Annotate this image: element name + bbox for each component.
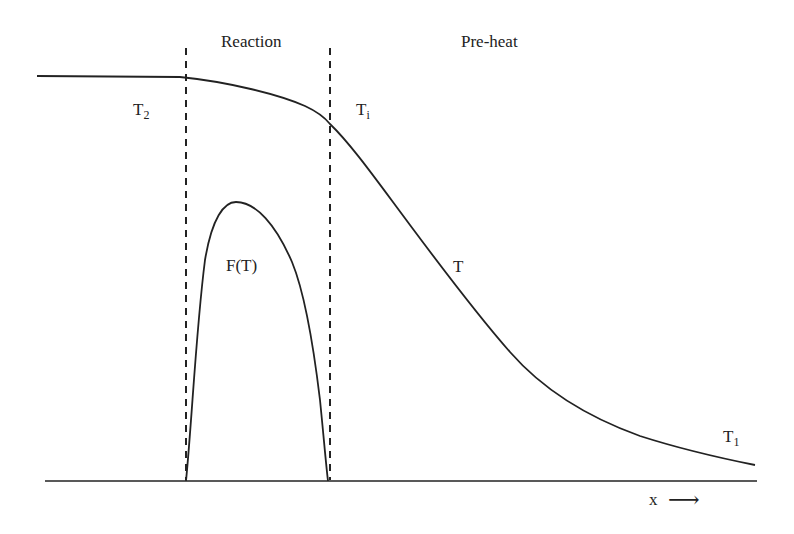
- temperature-label: T: [453, 257, 464, 276]
- reaction-rate-label: F(T): [226, 256, 257, 275]
- t2-label: T2: [133, 100, 149, 122]
- t1-label: T1: [723, 427, 739, 449]
- temperature-curve: [37, 76, 755, 465]
- ti-label: Ti: [356, 100, 370, 122]
- reaction-region-label: Reaction: [221, 32, 282, 51]
- flame-structure-diagram: Reaction Pre-heat T2 Ti T T1 F(T) x ⟶: [0, 0, 794, 534]
- preheat-region-label: Pre-heat: [461, 32, 518, 51]
- reaction-rate-curve: [186, 202, 328, 481]
- x-axis-label: x: [649, 490, 658, 509]
- x-direction-arrow-icon: ⟶: [668, 487, 700, 512]
